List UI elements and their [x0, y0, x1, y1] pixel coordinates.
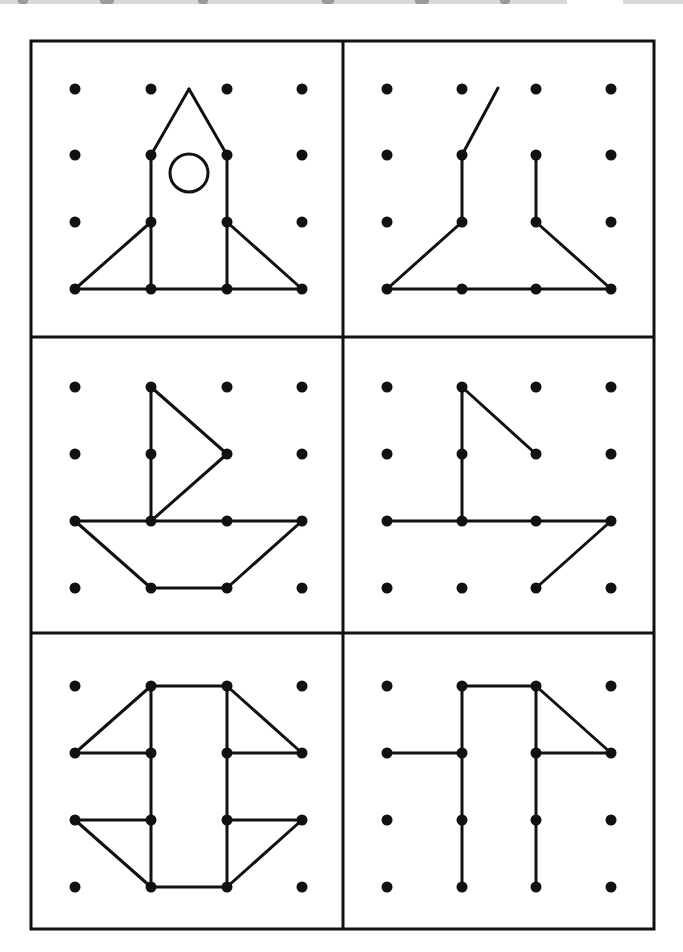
peg-dot [297, 748, 308, 759]
peg-dot [606, 815, 617, 826]
band-segment [387, 222, 462, 289]
band-segment [536, 686, 611, 753]
peg-dot [606, 84, 617, 95]
peg-dot [146, 516, 157, 527]
band-segment [536, 222, 611, 289]
peg-dot [606, 748, 617, 759]
peg-dot [457, 84, 468, 95]
peg-dot [457, 516, 468, 527]
peg-dot [146, 449, 157, 460]
peg-dot [531, 150, 542, 161]
peg-dot [457, 217, 468, 228]
peg-dot [382, 681, 393, 692]
band-segment [151, 454, 227, 521]
panel-rocket-model [70, 84, 308, 295]
peg-dot [70, 748, 81, 759]
peg-dot [457, 681, 468, 692]
peg-dot [457, 583, 468, 594]
peg-dot [382, 217, 393, 228]
peg-dot [222, 516, 233, 527]
peg-dot [297, 449, 308, 460]
peg-dot [297, 284, 308, 295]
peg-dot [70, 217, 81, 228]
band-segment [227, 521, 302, 588]
peg-dot [146, 681, 157, 692]
peg-dot [297, 382, 308, 393]
peg-dot [146, 382, 157, 393]
peg-dot [146, 583, 157, 594]
peg-dot [222, 150, 233, 161]
peg-dot [457, 748, 468, 759]
peg-dot [297, 150, 308, 161]
band-segment [227, 222, 302, 289]
peg-dot [531, 583, 542, 594]
peg-dot [222, 449, 233, 460]
band-segment [151, 89, 189, 155]
band-segment [462, 88, 498, 155]
peg-dot [531, 382, 542, 393]
band-segment [227, 820, 302, 887]
peg-dot [606, 150, 617, 161]
peg-dot [222, 681, 233, 692]
band-segment [536, 521, 611, 588]
peg-dot [297, 681, 308, 692]
peg-dot [457, 449, 468, 460]
peg-dot [531, 217, 542, 228]
peg-dot [606, 681, 617, 692]
peg-dot [382, 382, 393, 393]
band-segment [462, 387, 536, 454]
peg-dot [297, 217, 308, 228]
peg-dot [70, 150, 81, 161]
peg-dot [70, 284, 81, 295]
panel-boat-model [70, 382, 308, 594]
peg-dot [606, 516, 617, 527]
band-segment [75, 686, 151, 753]
peg-dot [531, 748, 542, 759]
peg-dot [222, 382, 233, 393]
peg-dot [146, 882, 157, 893]
panel-robot-model [70, 681, 308, 893]
peg-dot [70, 84, 81, 95]
peg-dot [531, 516, 542, 527]
peg-dot [222, 583, 233, 594]
peg-dot [457, 284, 468, 295]
peg-dot [457, 815, 468, 826]
peg-dot [146, 284, 157, 295]
window-circle [170, 154, 208, 192]
peg-dot [70, 449, 81, 460]
peg-dot [146, 150, 157, 161]
peg-dot [382, 150, 393, 161]
peg-dot [382, 583, 393, 594]
peg-dot [146, 748, 157, 759]
peg-dot [146, 217, 157, 228]
band-segment [75, 222, 151, 289]
peg-dot [297, 815, 308, 826]
peg-dot [606, 583, 617, 594]
peg-dot [606, 284, 617, 295]
peg-dot [531, 815, 542, 826]
peg-dot [382, 815, 393, 826]
peg-dot [382, 284, 393, 295]
peg-dot [606, 449, 617, 460]
peg-dot [70, 681, 81, 692]
band-segment [189, 89, 227, 155]
peg-dot [606, 882, 617, 893]
peg-dot [382, 449, 393, 460]
peg-dot [70, 516, 81, 527]
peg-dot [297, 583, 308, 594]
peg-dot [382, 882, 393, 893]
band-segment [151, 387, 227, 454]
panel-boat-copy [382, 382, 617, 594]
panel-robot-copy [382, 681, 617, 893]
peg-dot [222, 815, 233, 826]
peg-dot [222, 882, 233, 893]
panel-rocket-copy [382, 84, 617, 295]
peg-dot [382, 84, 393, 95]
peg-dot [531, 882, 542, 893]
worksheet-frame [31, 41, 654, 929]
peg-dot [146, 815, 157, 826]
peg-dot [146, 84, 157, 95]
peg-dot [531, 449, 542, 460]
peg-dot [222, 284, 233, 295]
band-segment [227, 686, 302, 753]
